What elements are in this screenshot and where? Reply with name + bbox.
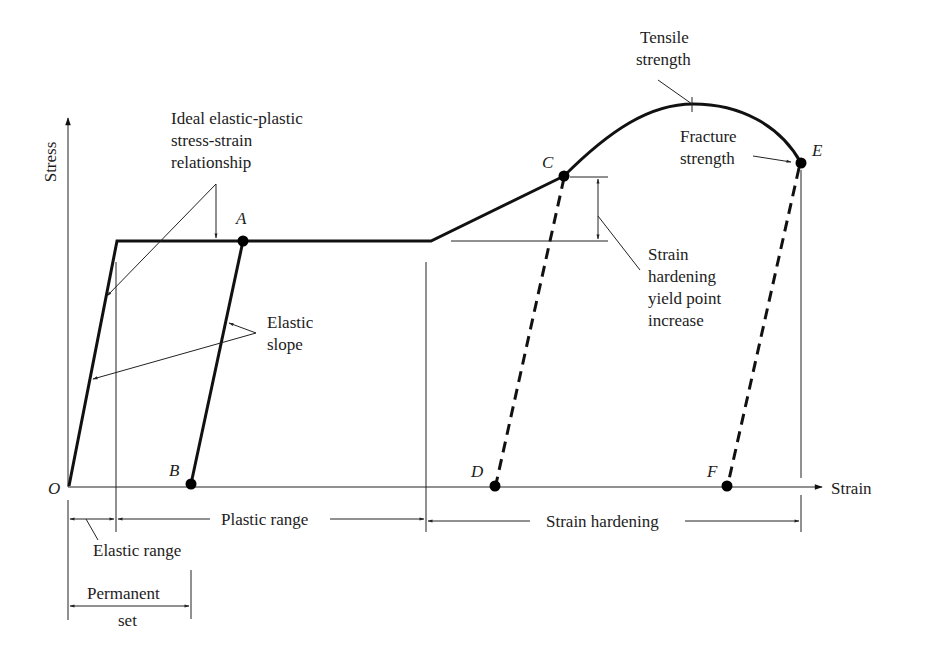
point-f-label: F bbox=[706, 462, 718, 481]
unloading-line-ef bbox=[728, 168, 799, 484]
fracture-line1: Fracture bbox=[680, 127, 737, 146]
elastic-slope-annotation: Elastic slope bbox=[93, 313, 314, 379]
fracture-line2: strength bbox=[680, 149, 735, 168]
permanent-set-line1: Permanent bbox=[87, 584, 160, 603]
point-f-marker bbox=[722, 481, 733, 492]
tensile-line2: strength bbox=[636, 50, 691, 69]
point-b-label: B bbox=[169, 461, 180, 480]
point-d-label: D bbox=[470, 462, 484, 481]
origin-label: O bbox=[48, 479, 60, 498]
elastic-range-label: Elastic range bbox=[93, 541, 181, 560]
range-dimensions: Elastic range Plastic range Strain harde… bbox=[70, 510, 799, 630]
ideal-label-line2: stress-strain bbox=[171, 131, 253, 150]
plastic-range-label: Plastic range bbox=[221, 510, 308, 529]
point-e-marker bbox=[796, 158, 807, 169]
stress-strain-diagram: Stress Strain O A B C D E F I bbox=[0, 0, 927, 665]
unloading-line-ab bbox=[191, 241, 243, 484]
ideal-label-line1: Ideal elastic-plastic bbox=[171, 109, 303, 128]
yield-increase-line4: increase bbox=[648, 311, 704, 330]
point-c-marker bbox=[559, 171, 570, 182]
point-e-label: E bbox=[811, 141, 823, 160]
x-axis-label: Strain bbox=[831, 479, 872, 498]
point-b-marker bbox=[186, 479, 197, 490]
axes: Stress Strain O bbox=[41, 118, 872, 498]
elastic-slope-line2: slope bbox=[267, 335, 303, 354]
yield-increase-line3: yield point bbox=[648, 289, 721, 308]
point-a-marker bbox=[238, 236, 249, 247]
tensile-line1: Tensile bbox=[640, 28, 689, 47]
permanent-set-line2: set bbox=[118, 611, 137, 630]
tensile-strength-annotation: Tensile strength bbox=[636, 28, 692, 112]
elastic-slope-line1: Elastic bbox=[267, 313, 314, 332]
point-c-label: C bbox=[542, 153, 554, 172]
ideal-annotation: Ideal elastic-plastic stress-strain rela… bbox=[107, 109, 303, 296]
yield-increase-annotation: Strain hardening yield point increase bbox=[451, 177, 721, 330]
yield-increase-line1: Strain bbox=[648, 245, 689, 264]
y-axis-label: Stress bbox=[41, 142, 60, 183]
yield-increase-line2: hardening bbox=[648, 267, 716, 286]
point-a-label: A bbox=[235, 209, 247, 228]
strain-hardening-label: Strain hardening bbox=[546, 512, 659, 531]
point-d-marker bbox=[490, 481, 501, 492]
unloading-line-cd bbox=[496, 178, 564, 484]
ideal-label-line3: relationship bbox=[171, 153, 251, 172]
fracture-strength-annotation: Fracture strength bbox=[680, 127, 791, 168]
elastic-plastic-line bbox=[69, 176, 564, 486]
